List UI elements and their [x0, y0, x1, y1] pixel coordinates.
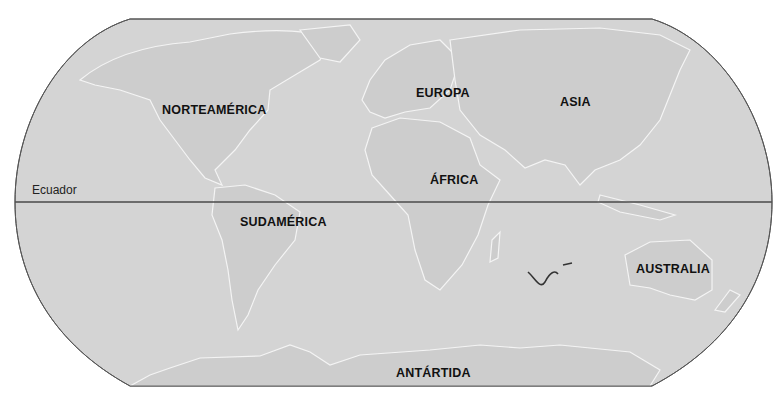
- label-australia: AUSTRALIA: [636, 262, 710, 276]
- label-south-america: SUDAMÉRICA: [240, 215, 327, 229]
- label-north-america: NORTEAMÉRICA: [162, 103, 266, 117]
- world-map: Ecuador NORTEAMÉRICA EUROPA ASIA ÁFRICA …: [0, 0, 783, 398]
- label-europe: EUROPA: [416, 86, 470, 100]
- equator-label: Ecuador: [32, 183, 77, 197]
- label-africa: ÁFRICA: [430, 173, 478, 187]
- label-asia: ASIA: [560, 95, 591, 109]
- map-canvas: [0, 0, 783, 398]
- label-antarctica: ANTÁRTIDA: [396, 366, 471, 380]
